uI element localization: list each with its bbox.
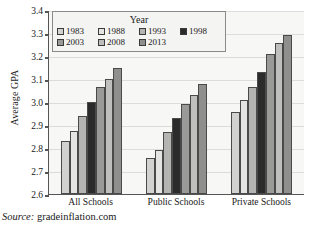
legend-item[interactable]: 2008 (98, 37, 139, 48)
source-label: Source: (2, 211, 34, 222)
y-axis-tick-label: 3.3 (31, 29, 43, 39)
bar (266, 54, 275, 194)
legend-title: Year (57, 14, 221, 25)
bar-group (219, 11, 304, 194)
bar (231, 112, 240, 194)
legend-item-label: 1998 (189, 26, 207, 37)
x-axis-category-label: All Schools (48, 197, 133, 207)
legend-swatch-icon (57, 39, 64, 46)
legend-row-1: 1983198819931998 (57, 26, 221, 37)
y-axis-tick-label: 2.6 (31, 190, 43, 200)
legend-item[interactable]: 1983 (57, 26, 98, 37)
bar (198, 84, 207, 194)
bar (283, 35, 292, 194)
bar (275, 43, 284, 194)
legend-item-label: 2008 (107, 37, 125, 48)
legend-item[interactable]: 1993 (139, 26, 180, 37)
bar (105, 79, 114, 194)
source-value: gradeinflation.com (34, 211, 116, 222)
bar (172, 118, 181, 194)
legend-item[interactable]: 2003 (57, 37, 98, 48)
x-axis-category-labels: All SchoolsPublic SchoolsPrivate Schools (48, 197, 304, 207)
bar (190, 95, 199, 194)
y-axis-title: Average GPA (9, 52, 20, 144)
bar (113, 68, 122, 195)
legend-item[interactable]: 1998 (180, 26, 221, 37)
legend-row-2: 200320082013 (57, 37, 221, 48)
y-axis-tick-label: 3.0 (31, 98, 43, 108)
legend-swatch-icon (98, 39, 105, 46)
source-caption: Source: gradeinflation.com (2, 211, 117, 222)
legend-swatch-icon (98, 28, 105, 35)
x-axis-category-label: Public Schools (133, 197, 218, 207)
legend-item-label: 2013 (148, 37, 166, 48)
legend-item-label: 1988 (107, 26, 125, 37)
bar (87, 102, 96, 194)
legend-swatch-icon (139, 28, 146, 35)
y-axis-tick-label: 3.4 (31, 6, 43, 16)
legend-swatch-icon (57, 28, 64, 35)
y-axis-tick-label: 2.7 (31, 167, 43, 177)
gpa-bar-chart: Average GPA 3.43.33.23.13.02.92.82.72.6 … (0, 0, 312, 229)
legend-item[interactable]: 2013 (139, 37, 180, 48)
legend-item-label: 1993 (148, 26, 166, 37)
legend-item[interactable]: 1988 (98, 26, 139, 37)
bar (78, 116, 87, 194)
bar-group-inner (231, 11, 292, 194)
bar (61, 141, 70, 194)
y-axis-tick-label: 3.1 (31, 75, 43, 85)
bar (257, 72, 266, 194)
bar (240, 100, 249, 194)
legend-swatch-icon (180, 28, 187, 35)
x-axis-category-label: Private Schools (219, 197, 304, 207)
bar (163, 132, 172, 194)
legend-item-label: 1983 (66, 26, 84, 37)
bar (70, 131, 79, 194)
y-axis-tick-label: 2.8 (31, 144, 43, 154)
bar (96, 87, 105, 194)
bar (181, 104, 190, 194)
legend: Year 1983198819931998 200320082013 (52, 11, 226, 52)
bar (248, 87, 257, 194)
legend-item-label: 2003 (66, 37, 84, 48)
legend-swatch-icon (139, 39, 146, 46)
y-axis-tick-label: 3.2 (31, 52, 43, 62)
bar (146, 158, 155, 194)
y-axis-tick-label: 2.9 (31, 121, 43, 131)
bar (155, 150, 164, 194)
